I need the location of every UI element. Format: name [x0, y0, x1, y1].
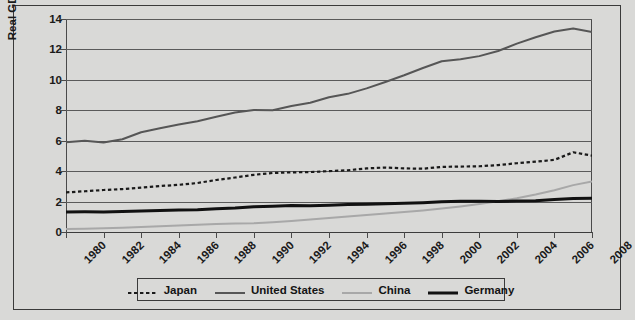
x-axis-tick-label: 1992: [307, 239, 334, 266]
x-axis-tick: [404, 232, 405, 238]
x-axis-tick: [592, 232, 593, 238]
plot-area: [66, 19, 592, 232]
y-axis-tick-label: 14: [40, 13, 62, 25]
x-axis-tick: [329, 232, 330, 238]
legend-item-united-states[interactable]: United States: [215, 284, 325, 296]
x-axis-tick: [66, 232, 67, 238]
x-axis-tick-label: 1986: [194, 239, 221, 266]
series-line-japan: [66, 152, 592, 192]
y-axis-tick-label: 0: [40, 226, 62, 238]
y-axis-tick-label: 4: [40, 165, 62, 177]
y-axis-title: Real GDP in Trillions of USD: [6, 0, 18, 56]
data-lines: [66, 19, 592, 232]
legend-label: Germany: [464, 284, 514, 296]
y-axis-tick-label: 10: [40, 74, 62, 86]
x-axis-tick-label: 2004: [532, 239, 559, 266]
y-axis-tick-label: 12: [40, 43, 62, 55]
x-axis-tick: [216, 232, 217, 238]
x-axis-ticks: [66, 232, 592, 239]
x-axis-tick-label: 1996: [382, 239, 409, 266]
y-axis-tick-label: 8: [40, 104, 62, 116]
x-axis-tick-label: 1982: [119, 239, 146, 266]
legend-item-japan[interactable]: Japan: [128, 284, 197, 296]
legend-item-germany[interactable]: Germany: [428, 284, 514, 296]
x-axis-tick: [104, 232, 105, 238]
x-axis-tick: [291, 232, 292, 238]
x-axis-tick-label: 1980: [81, 239, 108, 266]
legend-label: United States: [251, 284, 325, 296]
x-axis-tick: [517, 232, 518, 238]
x-axis-tick-label: 2000: [457, 239, 484, 266]
x-axis-tick-label: 1988: [232, 239, 259, 266]
x-axis-tick-label: 1990: [269, 239, 296, 266]
x-axis-tick: [442, 232, 443, 238]
chart-legend: JapanUnited StatesChinaGermany: [137, 278, 505, 301]
x-axis-tick-labels: 1980198219841986198819901992199419961998…: [66, 239, 592, 281]
series-line-united-states: [66, 28, 592, 142]
x-axis-tick-label: 2002: [495, 239, 522, 266]
legend-item-china[interactable]: China: [342, 284, 410, 296]
x-axis-tick-label: 1994: [344, 239, 371, 266]
x-axis-tick: [179, 232, 180, 238]
legend-label: Japan: [164, 284, 197, 296]
x-axis-tick: [254, 232, 255, 238]
chart-figure: Real GDP in Trillions of USD 02468101214…: [0, 0, 635, 320]
series-line-germany: [66, 198, 592, 212]
x-axis-tick: [141, 232, 142, 238]
y-axis-tick-label: 2: [40, 196, 62, 208]
x-axis-tick-label: 1984: [157, 239, 184, 266]
legend-label: China: [378, 284, 410, 296]
x-axis-tick: [367, 232, 368, 238]
y-axis-tick-label: 6: [40, 135, 62, 147]
y-axis-tick-labels: 02468101214: [40, 19, 62, 232]
x-axis-tick: [479, 232, 480, 238]
x-axis-tick: [554, 232, 555, 238]
x-axis-tick-label: 1998: [420, 239, 447, 266]
